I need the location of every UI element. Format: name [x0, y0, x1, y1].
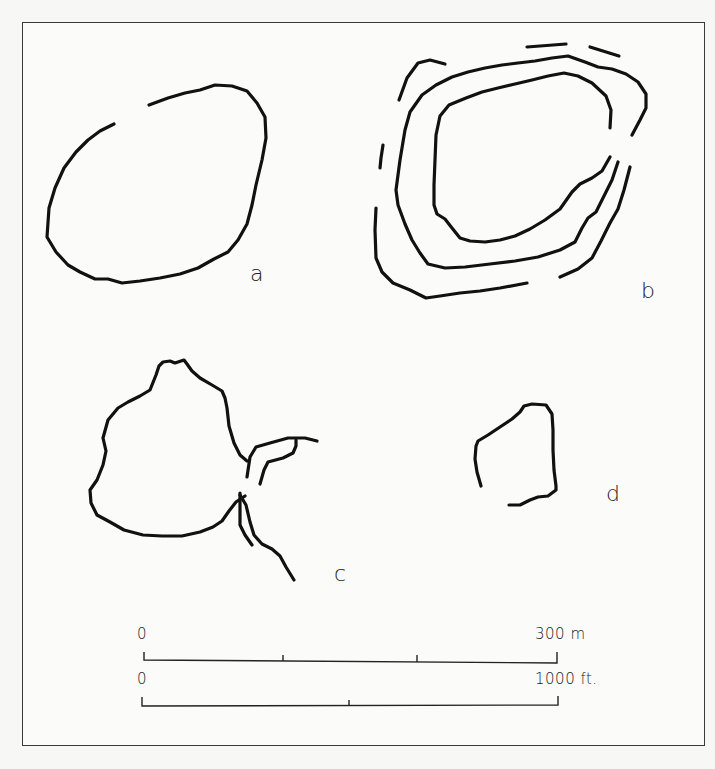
- shape-c-outline: [90, 360, 317, 580]
- shape-b-outline: [375, 44, 646, 298]
- shape-c-label: c: [334, 563, 346, 585]
- figure: a b c d 0 300 m 0 1000 ft.: [0, 0, 715, 769]
- shape-d-label: d: [606, 483, 620, 505]
- scale-bar-imperial: [142, 696, 558, 706]
- scale-imperial-start-label: 0: [137, 672, 147, 687]
- shape-d-outline: [475, 404, 556, 505]
- outline-drawing: [0, 0, 715, 769]
- shape-a-label: a: [250, 263, 263, 285]
- scale-imperial-end-label: 1000 ft.: [535, 672, 598, 687]
- shape-a-outline: [47, 85, 266, 283]
- scale-metric-start-label: 0: [137, 627, 147, 642]
- scale-bar-metric: [144, 652, 557, 663]
- shape-b-label: b: [641, 280, 655, 302]
- scale-metric-end-label: 300 m: [535, 627, 586, 642]
